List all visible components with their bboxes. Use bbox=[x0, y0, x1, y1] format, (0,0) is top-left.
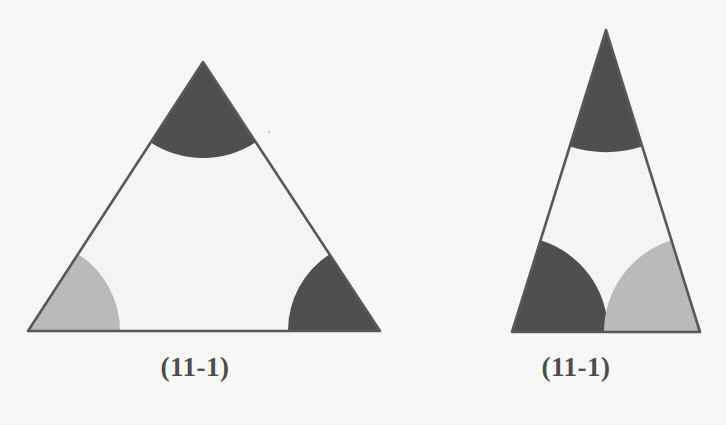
figure-panel-right: (11-1) bbox=[410, 0, 726, 425]
triangle-figure-left bbox=[0, 0, 410, 345]
figure-caption-right: (11-1) bbox=[418, 352, 726, 383]
angle-sector-apex-left bbox=[151, 62, 256, 158]
angle-sector-apex-right bbox=[570, 30, 643, 152]
figure-panel-left: (11-1) bbox=[0, 0, 410, 425]
triangle-figure-right bbox=[410, 0, 726, 345]
figure-row: (11-1) (11-1) bbox=[0, 0, 726, 425]
scan-speck bbox=[268, 131, 270, 133]
figure-caption-left: (11-1) bbox=[0, 352, 400, 383]
